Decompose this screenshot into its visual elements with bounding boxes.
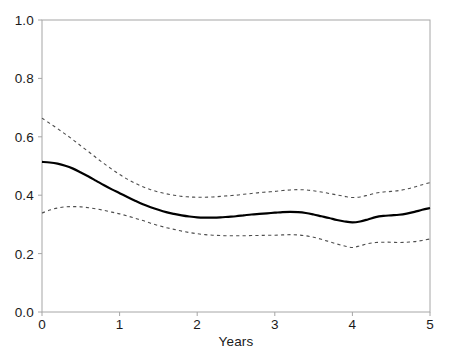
axis-ticks [38,20,430,316]
xtick-label-0: 0 [38,317,46,332]
ytick-label-5: 1.0 [4,13,34,28]
ytick-label-3: 0.6 [4,129,34,144]
xtick-label-2: 2 [193,317,201,332]
series-line-2 [42,207,430,248]
ytick-label-4: 0.8 [4,71,34,86]
chart-figure: 0.0 0.2 0.4 0.6 0.8 1.0 0 1 2 3 4 5 Year… [0,0,449,358]
xtick-label-3: 3 [271,317,279,332]
ytick-label-0: 0.0 [4,305,34,320]
series-line-0 [42,118,430,197]
xtick-label-4: 4 [349,317,357,332]
data-curves [42,118,430,247]
xtick-label-1: 1 [116,317,124,332]
ytick-label-1: 0.2 [4,246,34,261]
plot-frame [42,20,430,312]
x-axis-title: Years [218,334,253,349]
chart-plot-area [0,0,449,358]
ytick-label-2: 0.4 [4,188,34,203]
series-line-1 [42,162,430,222]
xtick-label-5: 5 [426,317,434,332]
